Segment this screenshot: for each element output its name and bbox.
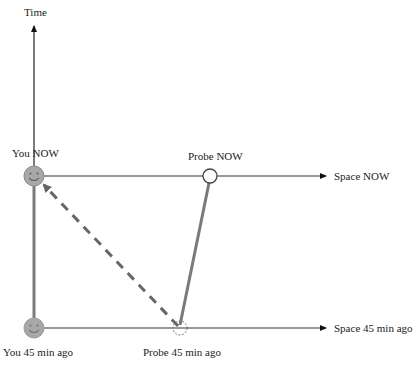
probe-worldline: [180, 183, 209, 325]
you-past-smiley-icon: [24, 318, 44, 338]
probe-now-marker: [203, 169, 217, 183]
probe-now-label: Probe NOW: [188, 150, 243, 162]
space-now-label: Space NOW: [334, 170, 389, 182]
you-now-label: You NOW: [12, 147, 59, 159]
time-axis-label: Time: [24, 6, 47, 18]
you-past-label: You 45 min ago: [3, 346, 73, 358]
circle-icon: [203, 169, 217, 183]
you-now-smiley-icon: [24, 166, 44, 186]
probe-past-label: Probe 45 min ago: [143, 346, 221, 358]
spacetime-diagram: [0, 0, 415, 367]
signal-path-dashed: [44, 185, 178, 326]
space-past-label: Space 45 min ago: [334, 322, 413, 334]
